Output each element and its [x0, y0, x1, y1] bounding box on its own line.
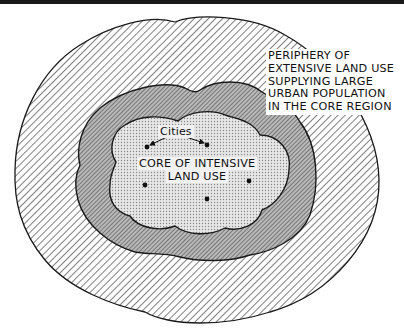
periphery-label: PERIPHERY OF EXTENSIVE LAND USE SUPPLYIN…	[266, 49, 397, 115]
city-dot	[205, 143, 210, 148]
core-label: CORE OF INTENSIVE LAND USE	[137, 157, 257, 183]
core-label-line: CORE OF INTENSIVE	[137, 157, 257, 170]
city-dot	[143, 183, 148, 188]
city-dot	[145, 145, 150, 150]
periphery-label-line: IN THE CORE REGION	[268, 101, 394, 114]
city-dot	[205, 197, 210, 202]
periphery-label-line: EXTENSIVE LAND USE	[268, 63, 394, 76]
core-label-line: LAND USE	[166, 170, 229, 183]
cities-label: Cities	[158, 125, 194, 138]
periphery-label-line: PERIPHERY OF	[268, 50, 394, 63]
